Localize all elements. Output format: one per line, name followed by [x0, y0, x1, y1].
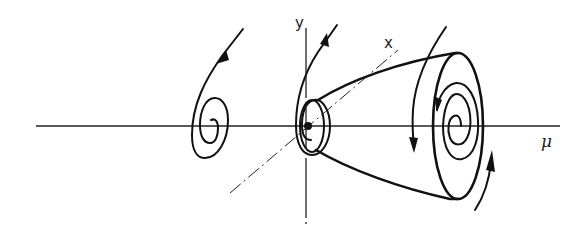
- y-axis-label: y: [295, 14, 304, 32]
- stable-spiral-left: [192, 29, 243, 158]
- x-axis-label: x: [384, 34, 393, 52]
- trajectory-top: [409, 27, 446, 153]
- arrow-icon: [486, 150, 495, 172]
- trajectory-bottom: [475, 150, 495, 210]
- x-axis: [230, 50, 398, 193]
- mu-axis-label: μ: [541, 131, 552, 151]
- origin-point: [304, 122, 312, 130]
- arrow-icon: [409, 137, 418, 153]
- spiral-origin: [296, 25, 337, 155]
- arrow-icon: [320, 33, 329, 47]
- hopf-bifurcation-diagram: y x μ: [0, 0, 584, 235]
- arrow-icon: [216, 50, 229, 64]
